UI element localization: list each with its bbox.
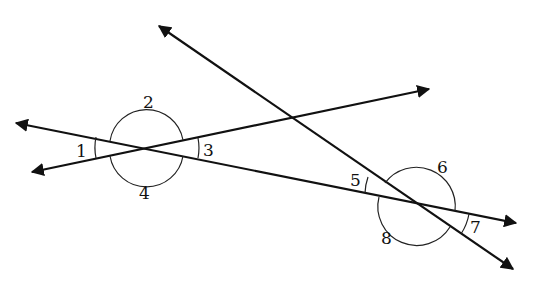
angle-label-8: 8 (381, 228, 392, 248)
line-b (32, 89, 429, 172)
angle-label-3: 3 (203, 140, 214, 160)
angle-label-5: 5 (350, 170, 361, 190)
angle-label-4: 4 (139, 183, 150, 203)
angle-label-2: 2 (143, 92, 154, 112)
angle-label-1: 1 (76, 141, 87, 161)
angle-diagram: 1 2 3 4 5 6 7 8 (0, 0, 544, 287)
angle-label-6: 6 (437, 157, 448, 177)
angle-label-7: 7 (470, 217, 481, 237)
